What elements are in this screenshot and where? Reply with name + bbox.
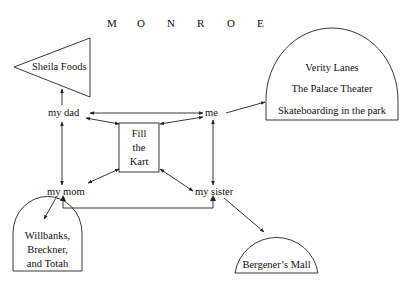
skateboarding-label: Skateboarding in the park [266, 106, 398, 117]
map-title: MONROE [107, 17, 287, 29]
breckner-label: Breckner, [13, 245, 82, 256]
my-dad-label: my dad [48, 108, 79, 119]
sheila-foods-label: Sheila Foods [32, 62, 87, 73]
monroe-diagram: MONROE Sheila Foods Verity Lanes The Pal… [0, 0, 405, 287]
palace-theater-label: The Palace Theater [266, 84, 398, 95]
me-label: me [205, 108, 218, 119]
kart-label: Kart [119, 157, 159, 168]
title-letter: R [197, 17, 227, 29]
willbanks-label: Willbanks, [13, 231, 82, 242]
title-letter: O [227, 17, 257, 29]
title-letter: O [137, 17, 167, 29]
title-letter: N [167, 17, 197, 29]
totah-label: and Totah [13, 259, 82, 270]
my-mom-label: my mom [47, 187, 85, 198]
bergeners-mall-label: Bergener’s Mall [235, 260, 318, 271]
title-letter: M [107, 17, 137, 29]
verity-lanes-label: Verity Lanes [266, 63, 398, 74]
the-label: the [119, 143, 159, 154]
fill-label: Fill [119, 129, 159, 140]
my-sister-label: my sister [195, 187, 233, 198]
title-letter: E [257, 17, 287, 29]
